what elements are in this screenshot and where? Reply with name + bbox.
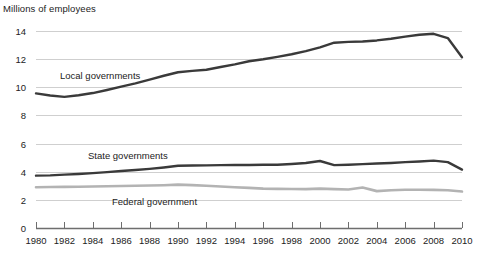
data-series-group — [36, 34, 462, 192]
y-axis-tick-label: 6 — [4, 138, 26, 149]
series-line-state-governments — [36, 161, 462, 176]
y-axis-tick-label: 10 — [4, 82, 26, 93]
series-line-federal-government — [36, 185, 462, 192]
series-label-federal-government: Federal government — [112, 196, 197, 207]
y-axis-tick-label: 8 — [4, 110, 26, 121]
y-axis-tick-label: 0 — [4, 223, 26, 234]
series-label-local-governments: Local governments — [60, 70, 140, 81]
x-axis-tick-label: 2010 — [442, 235, 477, 246]
gridlines-group — [36, 32, 462, 201]
y-axis-tick-label: 4 — [4, 166, 26, 177]
series-label-state-governments: State governments — [88, 150, 168, 161]
x-tick-marks-group — [37, 222, 463, 228]
y-axis-tick-label: 2 — [4, 194, 26, 205]
y-axis-tick-label: 14 — [4, 26, 26, 37]
y-axis-tick-label: 12 — [4, 54, 26, 65]
